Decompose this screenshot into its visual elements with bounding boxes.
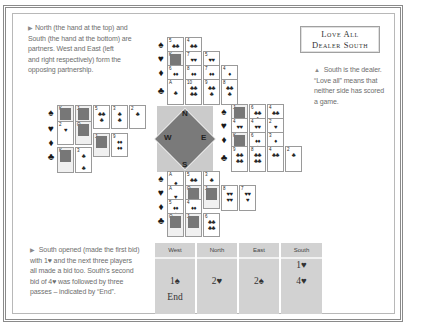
north-south-caption: ▶North (the hand at the top) and South (… xyxy=(28,23,132,76)
column-header: North xyxy=(197,243,237,259)
card: 10♣♣♣♣ xyxy=(185,79,202,105)
card: 8♣♣♣ xyxy=(221,79,238,105)
card: 5♣♣♣ xyxy=(93,105,110,129)
card: 6♣♣♣♣ xyxy=(203,213,220,237)
bid-column-north: North 2♥ xyxy=(197,243,237,314)
bid-column-east: East 2♠ xyxy=(239,243,279,314)
card: J xyxy=(93,133,110,157)
caption-line: South (the hand at the bottom) are xyxy=(28,34,132,45)
bidding-table: West 1♠ End North 2♥ East 2♠ South 1♥ 4♥ xyxy=(155,243,322,314)
caption-line: a game. xyxy=(314,97,384,108)
club-icon: ♣ xyxy=(156,215,166,227)
card: J xyxy=(185,213,202,237)
bid-column-west: West 1♠ End xyxy=(155,243,195,314)
card: 2♥ xyxy=(57,121,74,145)
bidding-caption: ▶ South opened (made the first bid) with… xyxy=(30,245,139,298)
club-icon: ♣ xyxy=(46,151,56,163)
caption-line: South opened (made the first bid) xyxy=(39,246,140,253)
bid-cell: 1♠ xyxy=(155,275,195,288)
caption-line: passes – indicated by “End”. xyxy=(30,287,139,298)
diamond-icon: ♦ xyxy=(219,134,229,146)
diamond-icon: ♦ xyxy=(46,137,56,149)
caption-line: all made a bid too. South’s second xyxy=(30,266,139,277)
card: J xyxy=(203,185,220,209)
card: 7♥♥♥ xyxy=(239,185,256,211)
compass-west: W xyxy=(164,133,172,142)
caption-line: bid of 4♥ was followed by three xyxy=(30,277,139,288)
card: 2♣ xyxy=(285,146,302,172)
caption-line: partners. West and East (left xyxy=(28,44,132,55)
dealer-caption: ▲ South is the dealer. “Love all” means … xyxy=(314,65,384,107)
caption-line: and right respectively) form the xyxy=(28,55,132,66)
heart-icon: ♥ xyxy=(156,53,166,65)
compass-north: N xyxy=(182,109,188,118)
caption-line: South is the dealer. xyxy=(324,66,382,73)
diamond-icon: ♦ xyxy=(156,201,166,213)
vulnerability-box: Love All Dealer South xyxy=(300,26,380,53)
column-header: East xyxy=(239,243,279,259)
spade-icon: ♠ xyxy=(156,39,166,51)
compass-table: N W E S xyxy=(157,106,213,172)
right-arrow-icon: ▶ xyxy=(30,247,35,253)
card: A♣ xyxy=(167,79,184,105)
spade-icon: ♠ xyxy=(156,173,166,185)
column-header: West xyxy=(155,243,195,259)
column-header: South xyxy=(281,243,322,259)
bid-column-south: South 1♥ 4♥ xyxy=(281,243,322,314)
caption-line: with 1♥ and the next three players xyxy=(30,256,139,267)
diamond-icon: ♦ xyxy=(156,67,166,79)
bid-cell: 2♠ xyxy=(239,275,279,288)
club-icon: ♣ xyxy=(219,152,229,164)
card: 3♣♣ xyxy=(111,105,128,129)
heart-icon: ♥ xyxy=(156,187,166,199)
card: Q xyxy=(75,121,92,145)
card: 8♥♥♥♥ xyxy=(221,185,238,211)
spade-icon: ♠ xyxy=(46,107,56,119)
club-icon: ♣ xyxy=(156,85,166,97)
heart-icon: ♥ xyxy=(219,120,229,132)
caption-line: “Love all” means that xyxy=(314,76,384,87)
compass-east: E xyxy=(201,133,206,142)
card: 9♣♣♣♣ xyxy=(231,146,248,172)
card: 9♣♣♣ xyxy=(203,79,220,105)
card: Q xyxy=(167,213,184,237)
caption-line: North (the hand at the top) and xyxy=(35,24,128,31)
compass-south: S xyxy=(182,160,187,169)
card: 3♣♣ xyxy=(75,147,92,173)
bid-cell: 4♥ xyxy=(281,275,322,288)
caption-line: neither side has scored xyxy=(314,86,384,97)
bid-cell: 1♥ xyxy=(281,259,322,272)
caption-line: opposing partnership. xyxy=(28,65,132,76)
bid-cell: End xyxy=(155,291,195,304)
card: 9♦♦♦♦ xyxy=(111,133,128,157)
card: 2♣ xyxy=(129,105,146,129)
card: 4♣♣ xyxy=(267,146,284,172)
up-arrow-icon: ▲ xyxy=(314,67,320,73)
bid-cell: 2♥ xyxy=(197,275,237,288)
card: K xyxy=(57,147,74,173)
heart-icon: ♥ xyxy=(46,123,56,135)
dealer-line: Dealer South xyxy=(301,40,379,51)
card: 8♣♣♣♣ xyxy=(249,146,266,172)
spade-icon: ♠ xyxy=(219,106,229,118)
vulnerability-line: Love All xyxy=(301,29,379,40)
right-arrow-icon: ▶ xyxy=(28,25,33,31)
